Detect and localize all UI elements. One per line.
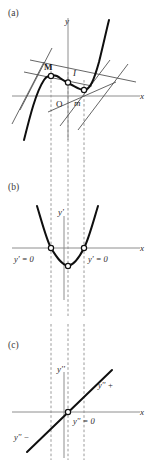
tangent-line-at-maximum [24,72,92,86]
label-y-prime-zero-right: y' = 0 [87,254,109,264]
tangent-line-left-secondary [12,62,44,124]
label-second-derivative-negative: y'' − [13,432,29,442]
panel-a-label: (a) [8,8,19,19]
label-minimum-m: m [74,98,81,108]
panel-c-curve-label: y'' [56,364,66,374]
marker-maximum [48,73,53,78]
panel-c-x-axis-label: x [139,407,144,417]
marker-inflection [65,80,70,85]
marker-root-right [81,245,86,250]
label-y-prime-zero-left: y' = 0 [13,254,35,264]
label-origin-O: O [56,99,63,109]
panel-b-first-derivative-graph: (b) y' x y' = 0 y' = 0 [0,160,149,320]
panel-b-label: (b) [8,182,19,193]
panel-c-second-derivative-graph: (c) y'' x y'' = 0 y'' − y'' + [0,320,149,464]
panel-a-x-axis-label: x [139,91,144,101]
label-maximum-M: M [44,62,53,72]
panel-b-curve-label: y' [57,207,65,217]
marker-minimum [81,87,86,92]
tangent-line-right-secondary [78,64,128,130]
marker-root-left [48,245,53,250]
figure-root: (a) y x M I m O (b) y' x y' = 0 y' = 0 [0,0,149,464]
marker-vertex [65,263,70,268]
tangent-line-left-steep [20,48,52,110]
panel-c-label: (c) [8,340,19,351]
panel-a-function-graph: (a) y x M I m O [0,0,149,160]
panel-a-y-axis-label: y [64,16,69,26]
marker-root [65,409,70,414]
panel-b-x-axis-label: x [139,243,144,253]
label-y-double-prime-zero: y'' = 0 [72,416,95,426]
label-second-derivative-positive: y'' + [97,380,113,390]
